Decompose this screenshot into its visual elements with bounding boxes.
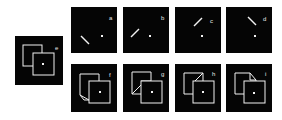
- panel-label: c: [210, 18, 213, 24]
- panel-label: i: [265, 71, 266, 77]
- panel-label: g: [161, 71, 164, 77]
- panel-h: h: [175, 64, 221, 112]
- two-squares-figure: [15, 36, 63, 85]
- panel-b: b: [123, 7, 169, 53]
- panel-label: d: [263, 16, 266, 22]
- line-dot-figure: [175, 7, 221, 53]
- panel-e: e: [15, 36, 63, 85]
- panel-f: f: [71, 64, 117, 112]
- panel-label: e: [55, 45, 58, 51]
- panel-label: f: [109, 72, 111, 78]
- panel-d: d: [226, 7, 272, 53]
- panel-label: h: [212, 71, 215, 77]
- line-dot-figure: [226, 7, 272, 53]
- panel-a: a: [71, 7, 117, 53]
- line-dot-figure: [123, 7, 169, 53]
- panel-c: c: [175, 7, 221, 53]
- panel-label: a: [109, 15, 112, 21]
- panel-label: b: [161, 15, 164, 21]
- line-dot-figure: [71, 7, 117, 53]
- panel-g: g: [123, 64, 169, 112]
- panel-i: i: [226, 64, 272, 112]
